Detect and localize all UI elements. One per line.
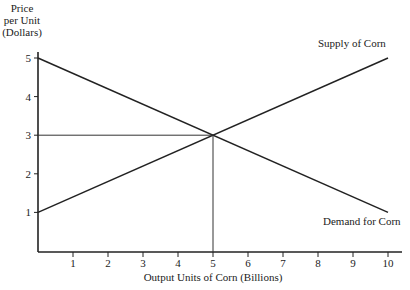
x-tick-label: 6 (245, 257, 251, 269)
y-tick-label: 3 (26, 129, 32, 141)
y-tick-label: 2 (26, 168, 32, 180)
chart: 1234567891012345 Output Units of Corn (B… (0, 0, 410, 290)
y-tick-label: 1 (26, 206, 32, 218)
x-tick-label: 8 (315, 257, 321, 269)
x-tick-label: 1 (70, 257, 76, 269)
x-tick-label: 4 (175, 257, 181, 269)
x-tick-label: 10 (383, 257, 395, 269)
x-tick-label: 7 (280, 257, 286, 269)
x-tick-label: 2 (105, 257, 111, 269)
axis-ticks: 1234567891012345 (26, 52, 395, 269)
y-tick-label: 5 (26, 52, 32, 64)
x-axis-label: Output Units of Corn (Billions) (144, 271, 283, 284)
x-tick-label: 9 (350, 257, 356, 269)
y-tick-label: 4 (26, 91, 32, 103)
demand-label: Demand for Corn (323, 215, 401, 227)
x-tick-label: 3 (140, 257, 146, 269)
supply-label: Supply of Corn (318, 37, 386, 49)
x-tick-label: 5 (210, 257, 216, 269)
